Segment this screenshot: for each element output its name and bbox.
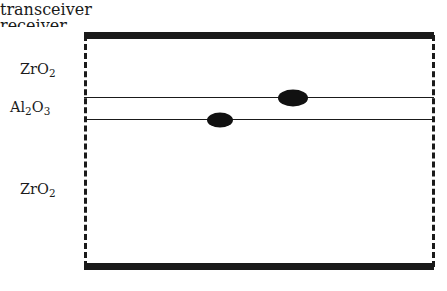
layer-label-zro2-top: ZrO2 xyxy=(20,61,56,79)
layer-label-al2o3: Al2O3 xyxy=(10,99,50,117)
upper-interface-line xyxy=(84,97,434,98)
defect-marker-lower xyxy=(207,113,233,128)
stack-cross-section xyxy=(84,32,434,270)
right-dashed-sidewall xyxy=(432,35,435,267)
layer-label-zro2-bottom: ZrO2 xyxy=(20,181,56,199)
receiver-caption: receiver xyxy=(0,19,447,27)
defect-marker-upper xyxy=(278,90,308,107)
transceiver-electrode-bar xyxy=(84,32,434,39)
transceiver-caption: transceiver xyxy=(0,0,447,19)
receiver-electrode-bar xyxy=(84,263,434,270)
left-dashed-sidewall xyxy=(84,35,87,267)
lower-interface-line xyxy=(84,119,434,120)
layer-stack-figure: transceiver ZrO2 Al2O3 ZrO2 receiver xyxy=(0,0,447,291)
